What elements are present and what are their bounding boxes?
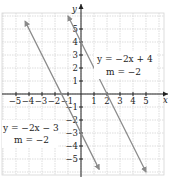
line2-equation: y = −2x − 3 xyxy=(2,123,59,133)
svg-text:4: 4 xyxy=(130,96,135,106)
line1-slope: m = −2 xyxy=(106,67,141,77)
line2-slope: m = −2 xyxy=(14,135,49,145)
svg-text:−4: −4 xyxy=(65,141,78,151)
svg-text:−3: −3 xyxy=(65,128,78,138)
svg-text:5: 5 xyxy=(143,96,148,106)
svg-text:2: 2 xyxy=(73,63,78,73)
axes xyxy=(2,4,168,177)
svg-text:4: 4 xyxy=(73,37,78,47)
svg-text:1: 1 xyxy=(91,96,96,106)
y-axis-label: y xyxy=(71,4,77,14)
coordinate-plane-chart: −5−4−3−2−112345−5−4−3−2−112345 y x y = −… xyxy=(0,0,171,181)
svg-text:−2: −2 xyxy=(48,96,61,106)
svg-text:−3: −3 xyxy=(35,96,48,106)
svg-text:1: 1 xyxy=(73,76,78,86)
x-axis-label: x xyxy=(163,95,168,105)
svg-text:−4: −4 xyxy=(22,96,35,106)
svg-text:3: 3 xyxy=(73,50,78,60)
svg-text:3: 3 xyxy=(117,96,122,106)
svg-text:−5: −5 xyxy=(9,96,22,106)
svg-text:−5: −5 xyxy=(65,154,78,164)
line1-equation: y = −2x + 4 xyxy=(96,54,153,64)
